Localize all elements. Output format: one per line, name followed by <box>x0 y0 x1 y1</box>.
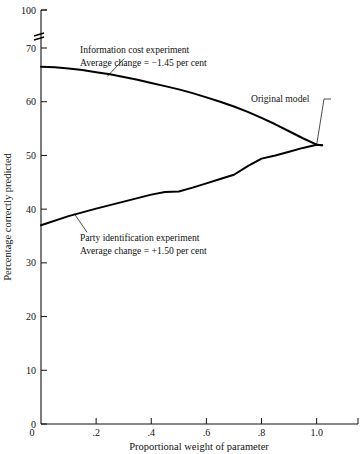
leader-line-original-model <box>317 99 331 145</box>
y-axis <box>41 10 47 424</box>
y-tick-label-30: 30 <box>26 257 36 268</box>
y-tick-label-20: 20 <box>26 311 36 322</box>
y-tick-label-70: 70 <box>26 43 36 54</box>
annotation-information-cost-line2: Average change = −1.45 per cent <box>80 57 207 68</box>
annotation-information-cost-line1: Information cost experiment <box>80 44 190 55</box>
leader-line-party-identification <box>74 213 87 232</box>
y-axis-break-icon <box>34 33 44 40</box>
x-tick-label-1.0: 1.0 <box>310 427 323 438</box>
x-tick-label-.4: .4 <box>148 427 156 438</box>
y-tick-label-40: 40 <box>26 204 36 215</box>
y-tick-group: 010203040506070100 <box>21 5 47 430</box>
x-axis-title: Proportional weight of parameter <box>129 441 269 452</box>
chart-figure: 010203040506070100 0.2.4.6.81.0 Proporti… <box>0 0 364 454</box>
x-tick-label-0: 0 <box>30 427 35 438</box>
y-tick-label-10: 10 <box>26 365 36 376</box>
annotation-original-model: Original model <box>251 93 310 104</box>
curve-information-cost <box>41 67 322 145</box>
annotation-party-identification-line1: Party identification experiment <box>80 232 200 243</box>
curve-party-identification <box>41 145 322 226</box>
annotation-party-identification-line2: Average change = +1.50 per cent <box>80 245 207 256</box>
y-axis-title: Percentage correctly predicted <box>2 152 13 280</box>
x-tick-group: 0.2.4.6.81.0 <box>30 418 323 438</box>
line-chart-svg: 010203040506070100 0.2.4.6.81.0 Proporti… <box>0 0 364 454</box>
x-axis <box>41 418 358 424</box>
y-tick-label-100: 100 <box>21 5 36 16</box>
x-tick-label-.6: .6 <box>203 427 211 438</box>
y-tick-label-60: 60 <box>26 96 36 107</box>
y-tick-label-50: 50 <box>26 150 36 161</box>
x-tick-label-.8: .8 <box>258 427 266 438</box>
x-tick-label-.2: .2 <box>92 427 100 438</box>
